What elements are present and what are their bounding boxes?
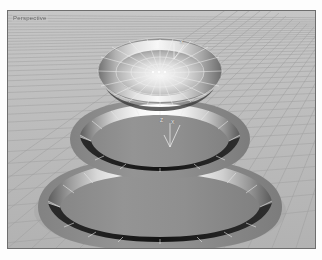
scene-svg	[8, 11, 315, 248]
scene-render[interactable]	[8, 11, 315, 248]
viewport-3d[interactable]: Perspective X Z X	[7, 10, 316, 249]
viewport-label-text: Perspective	[13, 15, 47, 21]
viewport-label[interactable]: Perspective	[12, 14, 48, 22]
app-root: Perspective X Z X	[0, 0, 322, 260]
